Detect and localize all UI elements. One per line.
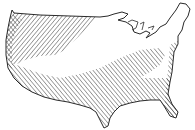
great-lakes-outline bbox=[128, 20, 154, 30]
hatched-regions bbox=[0, 8, 185, 130]
us-map-svg bbox=[0, 0, 195, 130]
us-map bbox=[0, 0, 195, 130]
